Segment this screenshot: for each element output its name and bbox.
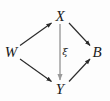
commutative-diagram: X W B Y ξ (0, 0, 110, 101)
node-label-x: X (55, 9, 64, 24)
edge-w-to-x (20, 23, 52, 46)
edge-x-to-b (69, 23, 90, 46)
node-label-b: B (92, 45, 101, 60)
edge-y-to-b (69, 59, 90, 82)
edge-label-xi: ξ (62, 47, 68, 57)
node-label-w: W (5, 45, 18, 60)
edge-w-to-y (20, 59, 52, 82)
node-label-y: Y (56, 82, 64, 97)
